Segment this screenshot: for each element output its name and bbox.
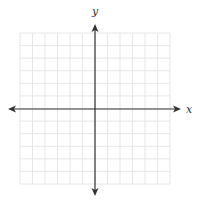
y-axis-label: y [91, 5, 99, 18]
axes [8, 24, 181, 196]
coordinate-plane: x y [0, 0, 201, 205]
x-axis-label: x [186, 103, 193, 116]
